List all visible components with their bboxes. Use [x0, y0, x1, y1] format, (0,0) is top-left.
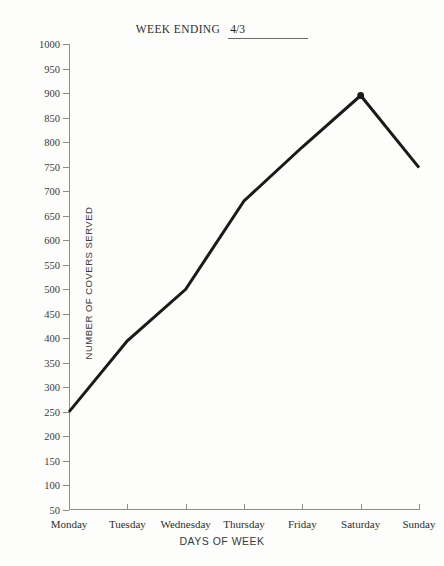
y-tick-label: 650: [44, 210, 60, 221]
chart-page: WEEK ENDING 4/3 NUMBER OF COVERS SERVED …: [0, 0, 444, 566]
y-tick-label: 250: [44, 406, 60, 417]
y-tick-label: 300: [44, 382, 60, 393]
x-tick-label: Tuesday: [109, 518, 146, 530]
y-tick-label: 100: [44, 480, 60, 491]
y-tick-label: 500: [44, 284, 60, 295]
y-tick-label: 600: [44, 235, 60, 246]
week-ending-value-field: 4/3: [228, 19, 308, 39]
x-tick-label: Monday: [51, 518, 88, 530]
week-ending-label: WEEK ENDING: [136, 23, 221, 35]
y-tick-label: 1000: [39, 39, 60, 50]
y-tick-label: 350: [44, 357, 60, 368]
x-tick-label: Sunday: [403, 518, 436, 530]
x-tick-mark: [419, 504, 420, 510]
x-tick-label: Thursday: [223, 518, 265, 530]
week-ending-value: 4/3: [230, 23, 245, 35]
y-tick-mark: [63, 510, 69, 511]
y-tick-label: 400: [44, 333, 60, 344]
chart-title: WEEK ENDING 4/3: [0, 19, 444, 39]
data-point-marker: [357, 92, 364, 99]
x-tick-label: Saturday: [341, 518, 380, 530]
series-line: [69, 96, 419, 412]
x-axis-title: DAYS OF WEEK: [0, 535, 444, 547]
y-tick-label: 150: [44, 455, 60, 466]
y-tick-label: 200: [44, 431, 60, 442]
line-series: [69, 44, 419, 510]
x-tick-label: Friday: [288, 518, 317, 530]
y-tick-label: 800: [44, 137, 60, 148]
y-tick-label: 900: [44, 88, 60, 99]
y-tick-label: 550: [44, 259, 60, 270]
y-tick-label: 700: [44, 186, 60, 197]
x-tick-label: Wednesday: [160, 518, 210, 530]
y-tick-label: 850: [44, 112, 60, 123]
plot-area: 1000950900850800750700650600550500450400…: [69, 44, 419, 510]
y-tick-label: 750: [44, 161, 60, 172]
y-tick-label: 50: [50, 505, 61, 516]
y-tick-label: 950: [44, 63, 60, 74]
y-tick-label: 450: [44, 308, 60, 319]
